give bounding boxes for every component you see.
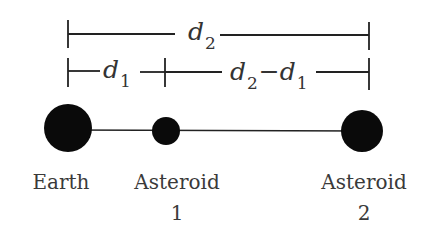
asteroid-2-circle [341, 110, 383, 152]
distance-diagram: d2 d1 d2−d1 Earth Asteroid 1 Asteroid 2 [0, 0, 441, 236]
asteroid-1-number: 1 [171, 201, 184, 225]
earth-label: Earth [32, 170, 89, 194]
earth-circle [44, 104, 92, 152]
asteroid-1-circle [152, 117, 180, 145]
d2-label: d2 [188, 17, 216, 53]
d2-minus-d1-label: d2−d1 [230, 57, 308, 93]
asteroid-1-label: Asteroid [133, 170, 220, 194]
asteroid-2-label: Asteroid [320, 170, 407, 194]
dimension-d1: d1 [68, 55, 165, 91]
d1-label: d1 [103, 55, 131, 91]
connecting-line [68, 130, 362, 131]
dimension-d2: d2 [68, 17, 369, 53]
asteroid-2-number: 2 [358, 201, 371, 225]
dimension-d2-minus-d1: d2−d1 [165, 57, 369, 93]
